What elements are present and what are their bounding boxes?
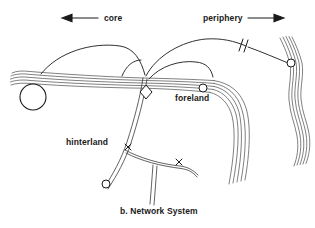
- network-system-figure: core periphery foreland hinterland b. Ne…: [0, 0, 315, 228]
- right-vertical-corridor: [280, 37, 310, 167]
- route-cut-mark-lower: [176, 159, 182, 165]
- foreland-node: [199, 84, 207, 92]
- figure-caption: b. Network System: [120, 206, 198, 216]
- hinterland-branch: [125, 150, 198, 177]
- route-cut-mark-upper: [125, 144, 131, 150]
- label-hinterland: hinterland: [66, 137, 108, 147]
- label-core: core: [104, 13, 122, 23]
- periphery-node: [287, 59, 295, 67]
- hinterland-node: [102, 180, 110, 188]
- hinterland-corridor: [104, 78, 147, 189]
- periphery-arc-inner: [149, 62, 213, 79]
- south-east-corridor: [210, 81, 249, 184]
- network-diagram-canvas: [0, 0, 315, 228]
- periphery-arc-to-node: [248, 47, 288, 63]
- core-arc-left: [41, 45, 145, 75]
- label-periphery: periphery: [203, 13, 243, 23]
- major-terminal-node: [20, 84, 46, 110]
- hinterland-stub: [150, 165, 157, 205]
- arrow-right-icon: [248, 14, 284, 22]
- arrow-left-icon: [62, 14, 98, 22]
- label-foreland: foreland: [175, 93, 209, 103]
- core-arc-inner: [122, 60, 141, 76]
- periphery-arc-upper: [146, 39, 246, 76]
- break-mark: [239, 39, 248, 52]
